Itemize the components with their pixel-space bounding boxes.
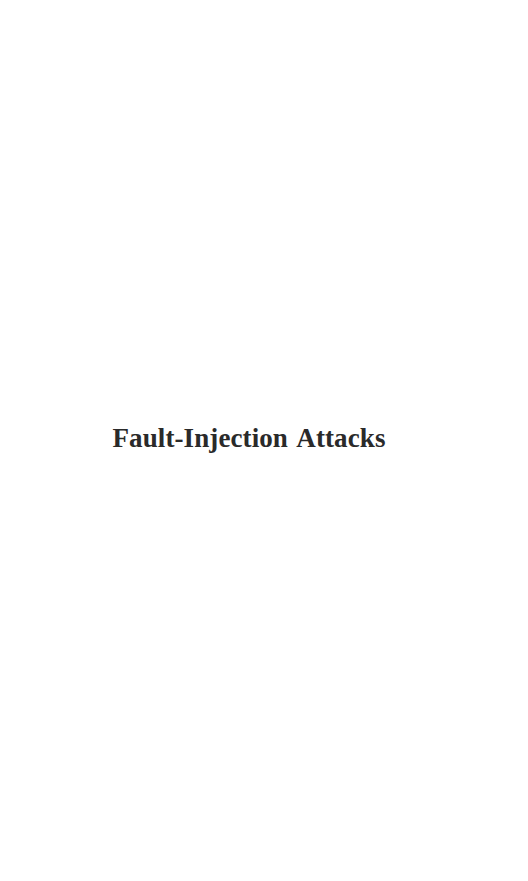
book-half-title-page: Fault-Injection Attacks (0, 0, 528, 881)
page-title: Fault-Injection Attacks (0, 421, 498, 455)
